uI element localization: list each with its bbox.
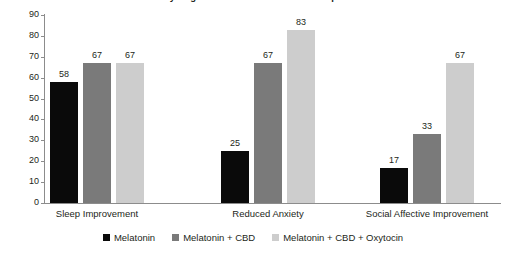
y-axis-tick-label: 70: [29, 51, 39, 61]
bar-value-label: 67: [455, 50, 465, 60]
y-axis-line: [44, 14, 45, 204]
y-axis-tick-mark: [41, 140, 45, 141]
legend-label: Melatonin + CBD: [183, 232, 255, 243]
legend-swatch-icon: [103, 234, 110, 241]
bar: 25: [221, 151, 249, 203]
bar: 67: [83, 63, 111, 203]
bar: 67: [254, 63, 282, 203]
legend-swatch-icon: [272, 234, 279, 241]
y-axis-tick-label: 10: [29, 176, 39, 186]
category-label: Sleep Improvement: [56, 208, 138, 219]
y-axis-tick-label: 90: [29, 9, 39, 19]
y-axis-tick-mark: [41, 78, 45, 79]
y-axis-tick-label: 60: [29, 72, 39, 82]
y-axis-tick-mark: [41, 57, 45, 58]
legend-label: Melatonin + CBD + Oxytocin: [283, 232, 403, 243]
y-axis-tick-label: 20: [29, 155, 39, 165]
y-axis-tick-mark: [41, 15, 45, 16]
bar-chart: Synergistic and Additive Relationships 0…: [0, 0, 506, 253]
y-axis-tick-mark: [41, 119, 45, 120]
bar: 67: [446, 63, 474, 203]
chart-title: Synergistic and Additive Relationships: [0, 0, 506, 2]
y-axis-tick-label: 40: [29, 113, 39, 123]
y-axis-tick-mark: [41, 203, 45, 204]
y-axis-tick-mark: [41, 182, 45, 183]
bar-value-label: 25: [230, 138, 240, 148]
legend-item[interactable]: Melatonin + CBD + Oxytocin: [272, 232, 403, 243]
y-axis-tick-mark: [41, 161, 45, 162]
bar-value-label: 67: [92, 50, 102, 60]
legend-label: Melatonin: [114, 232, 155, 243]
bar-value-label: 67: [263, 50, 273, 60]
bar-value-label: 17: [389, 155, 399, 165]
legend-item[interactable]: Melatonin + CBD: [172, 232, 255, 243]
bar-value-label: 67: [125, 50, 135, 60]
bar: 17: [380, 168, 408, 204]
category-label: Reduced Anxiety: [232, 208, 303, 219]
y-axis-tick-label: 80: [29, 30, 39, 40]
legend-swatch-icon: [172, 234, 179, 241]
bar-value-label: 83: [296, 17, 306, 27]
y-axis-tick-label: 50: [29, 93, 39, 103]
bar: 58: [50, 82, 78, 203]
y-axis-tick-mark: [41, 99, 45, 100]
y-axis-tick-mark: [41, 36, 45, 37]
y-axis-tick-label: 30: [29, 134, 39, 144]
legend-item[interactable]: Melatonin: [103, 232, 155, 243]
bar: 83: [287, 30, 315, 203]
chart-legend: MelatoninMelatonin + CBDMelatonin + CBD …: [0, 232, 506, 243]
category-label: Social Affective Improvement: [366, 208, 488, 219]
bar-value-label: 33: [422, 121, 432, 131]
bar: 67: [116, 63, 144, 203]
bar-value-label: 58: [59, 69, 69, 79]
x-axis-line: [44, 203, 501, 204]
y-axis-tick-label: 0: [34, 197, 39, 207]
bar: 33: [413, 134, 441, 203]
